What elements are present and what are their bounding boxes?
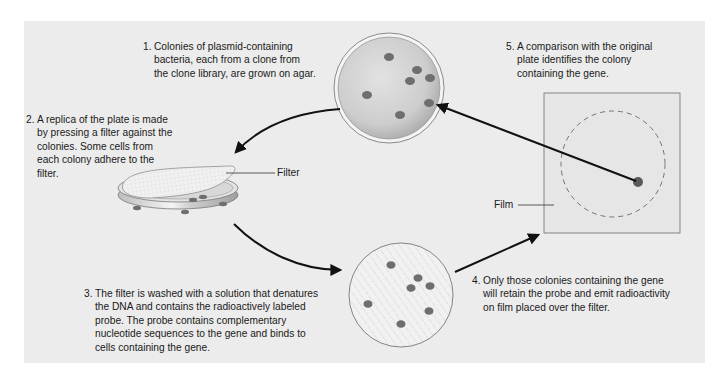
agar-plate <box>334 33 444 143</box>
radioactive-spot <box>633 177 643 187</box>
probed-filter <box>349 243 453 347</box>
film-label: Film <box>494 199 513 211</box>
step-4-number: 4. <box>472 274 481 287</box>
step-3-number: 3. <box>84 287 93 300</box>
arrow-probe-to-film <box>455 235 538 272</box>
step-2-text: A replica of the plate is made by pressi… <box>26 113 196 180</box>
arrow-plate-to-filter <box>236 109 340 152</box>
step-3: 3. The filter is washed with a solution … <box>84 287 344 354</box>
step-4: 4. Only those colonies containing the ge… <box>472 274 692 314</box>
step-1-number: 1. <box>143 40 152 53</box>
step-1-text: Colonies of plasmid-containing bacteria,… <box>143 40 343 80</box>
arrow-filter-to-probe <box>234 224 340 270</box>
step-2: 2. A replica of the plate is made by pre… <box>26 113 196 180</box>
step-3-text: The filter is washed with a solution tha… <box>84 287 344 354</box>
step-5-text: A comparison with the original plate ide… <box>506 40 696 80</box>
step-5: 5. A comparison with the original plate … <box>506 40 696 80</box>
step-5-number: 5. <box>506 40 515 53</box>
step-2-number: 2. <box>26 113 35 126</box>
step-1: 1. Colonies of plasmid-containing bacter… <box>143 40 343 80</box>
step-4-text: Only those colonies containing the gene … <box>472 274 692 314</box>
filter-label: Filter <box>277 167 300 179</box>
x-ray-film <box>518 93 680 233</box>
